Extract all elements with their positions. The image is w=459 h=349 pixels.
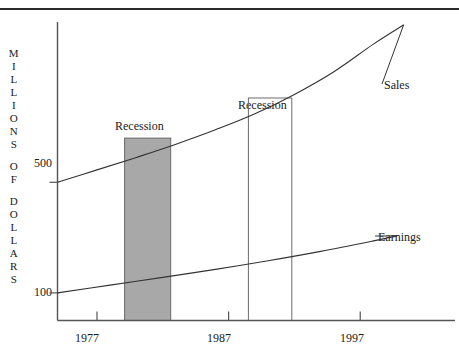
chart-figure: MILLIONSOFDOLLARS 500 100 1977 1987 1997…: [0, 0, 459, 349]
label-leader-lines-group: [375, 25, 404, 236]
axes-group: [50, 22, 456, 321]
series-lines-group: [58, 25, 404, 293]
series-line-earnings: [58, 236, 398, 293]
recession-band-first: [125, 138, 171, 320]
leader-line-sales: [382, 25, 404, 84]
plot-area: [0, 0, 459, 349]
series-line-sales: [58, 25, 404, 183]
recession-band-second: [248, 98, 291, 321]
recession-bands-group: [125, 98, 292, 321]
